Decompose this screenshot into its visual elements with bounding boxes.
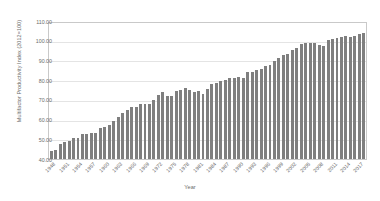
x-tick-label: 2008 (310, 161, 324, 175)
bar (309, 43, 312, 159)
bar (99, 128, 102, 159)
bar (72, 138, 75, 159)
bar (224, 80, 227, 159)
x-tick-label: 1978 (176, 161, 190, 175)
bar-series (49, 23, 366, 159)
bar (148, 104, 151, 159)
bar (246, 72, 249, 159)
bar (264, 66, 267, 159)
bar (103, 127, 106, 159)
bar (255, 70, 258, 159)
bar (300, 44, 303, 159)
x-tick-label: 1948 (42, 161, 56, 175)
x-tick-label: 1966 (123, 161, 137, 175)
bar (193, 92, 196, 159)
bar (50, 151, 53, 159)
bar (340, 37, 343, 159)
bar (184, 88, 187, 159)
bar (336, 38, 339, 159)
x-tick-label: 1984 (203, 161, 217, 175)
bar (59, 144, 62, 159)
chart-container: Multifactor Productivity Index (2012=100… (0, 0, 380, 201)
x-tick-label: 1969 (136, 161, 150, 175)
bar (94, 133, 97, 159)
bar (157, 95, 160, 159)
bar (349, 37, 352, 159)
y-tick-label: 80.00 (6, 78, 52, 84)
bar (286, 54, 289, 159)
bar (166, 96, 169, 159)
bar (260, 69, 263, 159)
y-tick-label: 90.00 (6, 58, 52, 64)
y-tick-label: 110.00 (6, 19, 52, 25)
x-tick-label: 1996 (257, 161, 271, 175)
bar (291, 50, 294, 159)
x-tick-label: 2017 (350, 161, 364, 175)
bar (179, 90, 182, 159)
x-tick-label: 1993 (243, 161, 257, 175)
bar (282, 55, 285, 159)
y-tick-label: 50.00 (6, 137, 52, 143)
bar (304, 43, 307, 159)
bar (197, 91, 200, 159)
x-tick-label: 2011 (324, 161, 338, 175)
bar (295, 48, 298, 159)
bar (219, 81, 222, 159)
bar (269, 65, 272, 159)
bar (121, 113, 124, 159)
x-tick-label: 1963 (109, 161, 123, 175)
bar (215, 83, 218, 159)
bar (68, 141, 71, 159)
bar (358, 34, 361, 159)
bar (152, 100, 155, 159)
bar (273, 61, 276, 159)
bar (233, 78, 236, 159)
bar (126, 110, 129, 159)
y-tick-label: 60.00 (6, 117, 52, 123)
bar (362, 33, 365, 159)
bar (81, 134, 84, 159)
bar (135, 107, 138, 159)
x-tick-label: 2005 (297, 161, 311, 175)
bar (327, 40, 330, 159)
x-tick-label: 1975 (163, 161, 177, 175)
bar (63, 142, 66, 159)
bar (85, 134, 88, 159)
bar (161, 92, 164, 159)
x-tick-label: 1987 (216, 161, 230, 175)
bar (313, 43, 316, 159)
bar (206, 89, 209, 159)
y-tick-label: 100.00 (6, 38, 52, 44)
x-tick-label: 1951 (56, 161, 70, 175)
bar (251, 72, 254, 159)
bar (331, 39, 334, 159)
x-tick-label: 1981 (190, 161, 204, 175)
bar (322, 46, 325, 159)
bar (108, 125, 111, 159)
x-tick-label: 1990 (230, 161, 244, 175)
x-tick-label: 1954 (69, 161, 83, 175)
bar (344, 36, 347, 159)
bar (144, 104, 147, 159)
x-tick-label: 2014 (337, 161, 351, 175)
x-tick-label: 1957 (83, 161, 97, 175)
bar (112, 121, 115, 159)
bar (318, 45, 321, 159)
x-tick-label: 1999 (270, 161, 284, 175)
bar (139, 104, 142, 159)
bar (210, 84, 213, 159)
bar (353, 36, 356, 159)
bar (77, 138, 80, 159)
x-axis-title: Year (0, 184, 380, 190)
bar (130, 107, 133, 159)
bar (175, 91, 178, 159)
bar (228, 78, 231, 159)
x-tick-label: 2002 (283, 161, 297, 175)
bar (202, 94, 205, 159)
bar (90, 133, 93, 159)
bar (54, 150, 57, 159)
x-tick-label: 1972 (149, 161, 163, 175)
bar (117, 117, 120, 159)
bar (170, 96, 173, 159)
bar (242, 78, 245, 159)
